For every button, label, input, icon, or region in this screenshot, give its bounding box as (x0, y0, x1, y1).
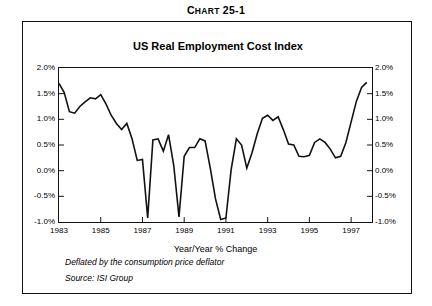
y-tick-label: 2.0% (37, 64, 55, 72)
chart-caption-prefix: C (187, 4, 195, 16)
x-tick-label: 1993 (259, 227, 277, 235)
x-axis-title: Year/Year % Change (58, 244, 373, 254)
x-tick-label: 1983 (50, 227, 68, 235)
y-axis-right-labels: 2.0%1.5%1.0%0.5%0.0%-0.5%-1.0% (375, 68, 405, 222)
y-tick-label: -0.5% (375, 192, 396, 200)
footnote-source: Source: ISI Group (65, 273, 133, 283)
chart-figure: CHART 25-1 US Real Employment Cost Index… (0, 0, 432, 306)
x-tick-label: 1989 (175, 227, 193, 235)
chart-caption-number: 25-1 (220, 4, 245, 16)
y-tick-label: -1.0% (375, 218, 396, 226)
data-series-line (59, 82, 367, 219)
x-tick-label: 1987 (134, 227, 152, 235)
x-tick-label: 1991 (217, 227, 235, 235)
plot-area: 2.0%1.5%1.0%0.5%0.0%-0.5%-1.0% 2.0%1.5%1… (58, 67, 373, 223)
series-group (59, 82, 367, 219)
y-tick-label: 0.5% (375, 141, 393, 149)
x-tick-label: 1985 (92, 227, 110, 235)
y-tick-label: 1.5% (375, 90, 393, 98)
y-tick-label: 1.0% (375, 115, 393, 123)
chart-panel: US Real Employment Cost Index 2.0%1.5%1.… (22, 21, 412, 294)
y-tick-label: 1.0% (37, 115, 55, 123)
chart-title: US Real Employment Cost Index (23, 40, 413, 52)
footnote-deflator: Deflated by the consumption price deflat… (65, 257, 224, 267)
y-tick-marks-left (59, 94, 372, 222)
y-tick-label: -1.0% (34, 218, 55, 226)
y-axis-left-labels: 2.0%1.5%1.0%0.5%0.0%-0.5%-1.0% (27, 68, 55, 222)
y-tick-label: 0.0% (375, 167, 393, 175)
plot-svg (59, 68, 372, 222)
y-tick-label: -0.5% (34, 192, 55, 200)
x-axis-labels: 19831985198719891991199319951997 (59, 222, 372, 238)
x-tick-label: 1997 (342, 227, 360, 235)
chart-number-caption: CHART 25-1 (0, 4, 432, 16)
y-tick-label: 0.5% (37, 141, 55, 149)
x-tick-label: 1995 (300, 227, 318, 235)
chart-caption-smallcaps: HART (195, 6, 220, 16)
y-tick-label: 1.5% (37, 90, 55, 98)
y-tick-label: 0.0% (37, 167, 55, 175)
y-tick-label: 2.0% (375, 64, 393, 72)
